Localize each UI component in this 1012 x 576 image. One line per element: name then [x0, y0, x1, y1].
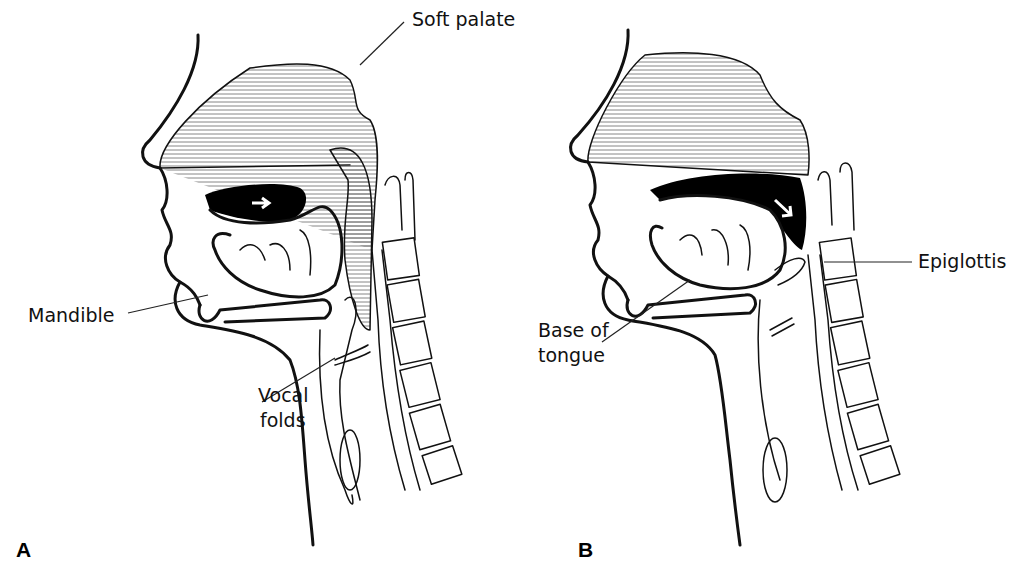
base-of-tongue-leader — [602, 280, 690, 342]
label-base-of-tongue-line2: tongue — [538, 344, 605, 366]
soft-palate-leader — [360, 22, 404, 65]
tongue — [650, 196, 785, 289]
label-epiglottis: Epiglottis — [918, 250, 1006, 272]
panel-letter-a: A — [16, 538, 31, 562]
spine-top — [818, 163, 854, 230]
vocal-folds — [335, 345, 370, 365]
mandible-bone — [199, 300, 330, 322]
bolus-channel — [650, 174, 806, 250]
mandible-bone — [627, 295, 755, 318]
label-mandible: Mandible — [28, 304, 114, 326]
head-neck-sagittal-drawing-b — [430, 0, 1012, 576]
tongue-texture — [680, 225, 750, 270]
label-vocal-folds-line1: Vocal — [258, 384, 309, 406]
spine-top — [385, 173, 415, 241]
mandible-leader — [128, 295, 208, 313]
panel-letter-b: B — [578, 538, 593, 562]
label-vocal-folds-line2: folds — [260, 409, 306, 431]
tongue-texture — [240, 230, 311, 275]
trachea-front — [320, 330, 353, 504]
panel-b-illustration: Epiglottis Base of tongue B — [430, 0, 936, 576]
label-base-of-tongue-line1: Base of — [538, 319, 609, 341]
thyroid-gland — [763, 438, 787, 502]
vocal-folds — [770, 318, 794, 336]
epiglottis-larynx — [340, 297, 360, 500]
